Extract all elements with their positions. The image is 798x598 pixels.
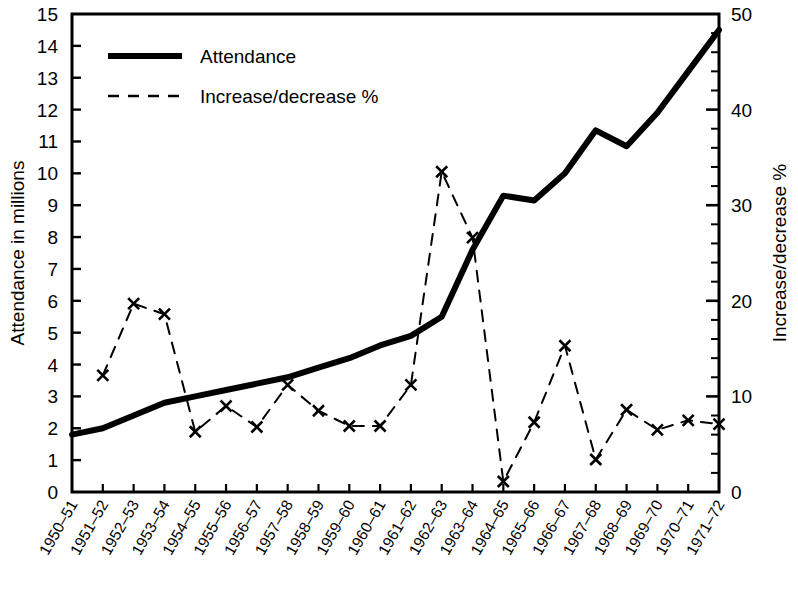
right-axis-tick-label: 20 [731, 291, 752, 312]
plot-frame [72, 14, 719, 492]
data-point-marker [159, 309, 170, 320]
increase-decrease-line [103, 172, 719, 482]
left-axis-tick-label: 6 [47, 291, 58, 312]
data-point-marker [559, 340, 570, 351]
y2-axis-title: Increase/decrease % [769, 164, 790, 343]
attendance-line [72, 30, 719, 435]
data-point-marker [221, 400, 232, 411]
left-axis-tick-label: 14 [37, 36, 59, 57]
legend-label-increase-decrease: Increase/decrease % [200, 86, 379, 107]
attendance-line-chart: 0123456789101112131415Attendance in mill… [0, 0, 798, 598]
left-axis-tick-label: 7 [47, 259, 58, 280]
left-axis-tick-label: 13 [37, 68, 58, 89]
data-point-marker [313, 405, 324, 416]
left-axis-tick-label: 12 [37, 100, 58, 121]
chart-figure: 0123456789101112131415Attendance in mill… [0, 0, 798, 598]
right-axis-tick-label: 50 [731, 4, 752, 25]
right-axis-tick-label: 30 [731, 195, 752, 216]
right-axis-tick-label: 0 [731, 482, 742, 503]
plot-border [72, 14, 719, 492]
left-axis-tick-label: 9 [47, 195, 58, 216]
data-point-marker [97, 370, 108, 381]
data-point-marker [621, 404, 632, 415]
data-point-marker [282, 379, 293, 390]
x-axis: 1950–511951–521952–531953–541954–551955–… [36, 484, 728, 558]
left-axis-tick-label: 10 [37, 163, 58, 184]
right-axis-tick-label: 40 [731, 100, 752, 121]
left-axis-tick-label: 8 [47, 227, 58, 248]
left-axis-tick-label: 2 [47, 418, 58, 439]
data-point-marker [652, 424, 663, 435]
data-point-marker [128, 298, 139, 309]
left-axis-tick-label: 1 [47, 450, 58, 471]
y-axis-title: Attendance in millions [7, 161, 28, 346]
right-axis-tick-label: 10 [731, 386, 752, 407]
chart-legend: AttendanceIncrease/decrease % [108, 46, 379, 107]
left-axis-tick-label: 5 [47, 323, 58, 344]
left-axis-tick-label: 11 [38, 131, 58, 152]
legend-label-attendance: Attendance [200, 46, 296, 67]
left-axis-tick-label: 0 [47, 482, 58, 503]
data-point-marker [251, 421, 262, 432]
left-axis: 0123456789101112131415 [37, 4, 81, 503]
left-axis-tick-label: 15 [37, 4, 58, 25]
data-series-group [72, 30, 725, 487]
data-point-marker [529, 417, 540, 428]
left-axis-tick-label: 4 [47, 355, 58, 376]
data-point-marker [590, 454, 601, 465]
left-axis-tick-label: 3 [47, 386, 58, 407]
right-axis: 01020304050 [706, 4, 752, 503]
